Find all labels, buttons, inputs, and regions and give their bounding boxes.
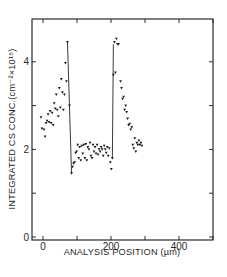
data-point-marker [60, 78, 63, 81]
data-point-marker [103, 145, 106, 148]
data-point-marker [102, 155, 105, 158]
data-point-marker [81, 153, 84, 156]
data-point-marker [68, 104, 71, 107]
data-point-marker [80, 145, 83, 148]
data-point-marker [110, 168, 113, 171]
data-point-marker [59, 107, 62, 110]
y-tick-label: 2 [23, 144, 29, 155]
data-point-marker [53, 102, 56, 105]
data-point-marker [98, 148, 101, 151]
y-tick-label: 0 [23, 232, 29, 243]
x-axis-label: ANALYSIS POSITION (µm) [64, 247, 181, 257]
data-point-marker [83, 157, 86, 160]
data-point-marker [130, 126, 133, 129]
data-point-marker [105, 152, 108, 155]
data-point-marker [91, 157, 94, 160]
data-point-marker [88, 148, 91, 151]
y-axis-ticks: 024 [23, 56, 213, 242]
data-point-marker [63, 93, 66, 96]
data-point-marker [55, 93, 58, 96]
data-point-marker [89, 142, 92, 145]
plot-frame [32, 19, 213, 240]
data-point-marker [125, 111, 128, 114]
data-point-marker [99, 150, 102, 153]
data-point-marker [137, 139, 140, 142]
data-point-marker [70, 172, 73, 175]
data-point-marker [77, 157, 80, 160]
data-point-marker [126, 118, 129, 121]
data-point-marker [123, 109, 126, 112]
data-point-marker [61, 91, 64, 94]
data-point-marker [62, 109, 65, 112]
data-point-marker [113, 41, 116, 44]
data-point-marker [45, 122, 48, 125]
data-point-marker [40, 116, 43, 119]
data-point-marker [44, 135, 47, 138]
data-point-marker [114, 72, 117, 75]
data-point-marker [46, 120, 49, 123]
data-point-marker [57, 115, 60, 118]
data-point-marker [86, 146, 89, 149]
data-point-marker [79, 159, 82, 162]
data-point-marker [129, 128, 132, 131]
data-point-marker [85, 159, 88, 162]
data-point-marker [132, 147, 135, 150]
data-point-marker [134, 150, 137, 153]
data-point-marker [76, 144, 79, 147]
data-point-marker [135, 142, 138, 145]
connector-lines [67, 42, 113, 173]
data-point-marker [47, 113, 50, 116]
data-point-marker [97, 153, 100, 156]
data-point-marker [101, 148, 104, 151]
data-point-marker [106, 146, 109, 149]
data-point-marker [65, 80, 68, 83]
data-point-marker [54, 107, 57, 110]
y-tick-label: 4 [23, 56, 29, 67]
data-point-marker [96, 144, 99, 147]
x-axis-ticks: 0200400 [40, 19, 213, 252]
data-point-marker [111, 157, 114, 160]
data-point-marker [108, 147, 111, 150]
data-point-marker [78, 146, 81, 149]
data-point-marker [93, 150, 96, 153]
data-point-marker [92, 144, 95, 147]
data-point-marker [115, 38, 118, 41]
data-point-marker [50, 122, 53, 125]
data-point-marker [94, 146, 97, 149]
data-point-marker [131, 144, 134, 147]
data-point-marker [122, 96, 125, 99]
data-point-marker [121, 98, 124, 101]
chart: 024 0200400 ANALYSIS POSITION (µm) INTEG… [0, 0, 227, 277]
data-point-marker [124, 104, 127, 107]
data-point-marker [100, 146, 103, 149]
data-point-marker [56, 109, 59, 112]
data-point-marker [58, 87, 61, 90]
data-point-marker [141, 145, 144, 148]
data-point-marker [64, 62, 67, 65]
data-point-marker [133, 137, 136, 140]
data-points [40, 38, 144, 175]
data-point-marker [120, 87, 123, 90]
y-axis-label: INTEGRATED CS CONC.(cm⁻²×10¹⁵) [7, 49, 17, 210]
x-tick-label: 0 [40, 241, 46, 252]
data-point-marker [90, 155, 93, 158]
data-point-marker [109, 161, 112, 164]
connector-line [67, 42, 71, 173]
data-point-marker [107, 155, 110, 158]
data-point-marker [43, 128, 46, 131]
data-point-marker [52, 124, 55, 127]
connector-line [112, 44, 113, 158]
data-point-marker [51, 112, 54, 115]
data-point-marker [140, 142, 143, 145]
data-point-marker [112, 74, 115, 77]
data-point-marker [104, 148, 107, 151]
data-point-marker [119, 80, 122, 83]
data-point-marker [66, 41, 69, 44]
